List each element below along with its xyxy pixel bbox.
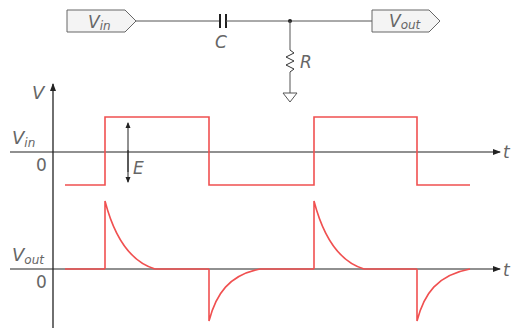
circuit-schematic: Vin C R Vout (67, 10, 440, 102)
input-port-tag: Vin (67, 10, 136, 33)
resistor-label: R (300, 52, 312, 72)
capacitor-symbol (220, 14, 226, 28)
capacitor-label: C (215, 32, 227, 52)
output-zero-label: 0 (36, 272, 47, 292)
ground-icon (283, 93, 297, 102)
input-square-wave (65, 117, 470, 185)
input-zero-label: 0 (36, 155, 47, 175)
resistor-symbol (286, 21, 294, 93)
input-signal-label: Vin (12, 127, 35, 150)
output-port-tag: Vout (372, 10, 440, 32)
output-signal-label: Vout (12, 244, 45, 267)
voltage-axis-label: V (32, 82, 46, 103)
output-spike-wave (65, 201, 470, 321)
output-time-axis-label: t (503, 260, 511, 280)
amplitude-label: E (133, 158, 144, 178)
rc-differentiator-diagram: Vin C R Vout V t Vin (0, 0, 515, 336)
input-time-axis-label: t (503, 142, 511, 162)
graph-axes: V t Vin 0 t Vout 0 (10, 82, 511, 328)
